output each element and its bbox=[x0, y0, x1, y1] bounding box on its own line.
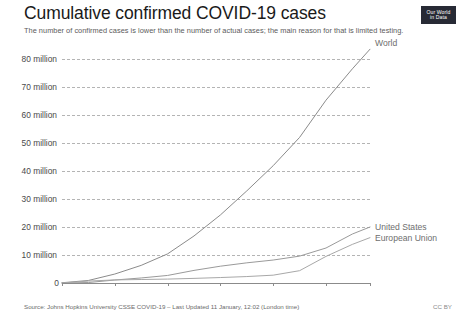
x-axis-tick bbox=[220, 283, 221, 286]
x-axis-tick bbox=[273, 283, 274, 286]
chart-subtitle: The number of confirmed cases is lower t… bbox=[24, 26, 403, 35]
y-axis-zero-label: 0 bbox=[54, 278, 59, 288]
series-label-world[interactable]: World bbox=[375, 38, 397, 48]
y-axis-tick-label: 60 million bbox=[22, 110, 57, 120]
y-axis-tick-label: 50 million bbox=[22, 138, 57, 148]
series-lines bbox=[62, 45, 370, 283]
license-note[interactable]: CC BY bbox=[433, 303, 452, 310]
y-axis-tick-label: 30 million bbox=[22, 194, 57, 204]
source-note: Source: Johns Hopkins University CSSE CO… bbox=[24, 303, 299, 310]
x-axis-tick bbox=[326, 283, 327, 286]
series-label-united_states[interactable]: United States bbox=[375, 222, 427, 232]
y-axis-tick-label: 40 million bbox=[22, 166, 57, 176]
series-line-united_states[interactable] bbox=[62, 227, 370, 283]
plot-area: 10 million20 million30 million40 million… bbox=[62, 45, 370, 283]
logo-line-2: in Data bbox=[430, 15, 447, 20]
x-axis-tick bbox=[115, 283, 116, 286]
x-axis-line bbox=[62, 283, 370, 284]
series-label-european_union[interactable]: European Union bbox=[375, 233, 437, 243]
x-axis-tick bbox=[168, 283, 169, 286]
page-title: Cumulative confirmed COVID-19 cases bbox=[24, 3, 326, 24]
y-axis-tick-label: 80 million bbox=[22, 54, 57, 64]
x-axis-tick bbox=[370, 283, 371, 286]
x-axis-tick bbox=[62, 283, 63, 286]
y-axis-tick-label: 20 million bbox=[22, 222, 57, 232]
series-line-european_union[interactable] bbox=[62, 238, 370, 283]
chart-container: Cumulative confirmed COVID-19 cases The … bbox=[0, 0, 461, 325]
y-axis-tick-label: 70 million bbox=[22, 82, 57, 92]
y-axis-tick-label: 10 million bbox=[22, 250, 57, 260]
our-world-in-data-logo[interactable]: Our World in Data bbox=[421, 6, 456, 24]
series-line-world[interactable] bbox=[62, 49, 370, 283]
